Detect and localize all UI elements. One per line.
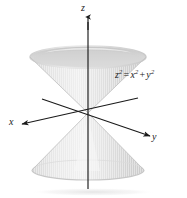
- z-axis-label: z: [81, 3, 85, 13]
- cone-figure: z x y z2=x2+y2: [0, 0, 187, 198]
- x-axis-label: x: [9, 117, 13, 127]
- equation-rhs-exponent-2: 2: [151, 68, 154, 75]
- equation-annotation: z2=x2+y2: [115, 70, 154, 80]
- ground-shadow: [31, 188, 155, 196]
- y-axis-label: y: [152, 132, 156, 142]
- cone-diagram-svg: [0, 0, 187, 198]
